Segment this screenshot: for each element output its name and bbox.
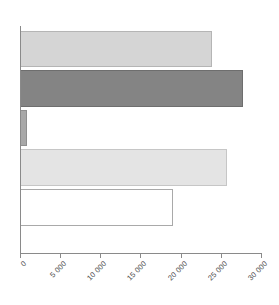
axis-tick-label-4-text: 20 000	[166, 259, 189, 282]
axis-tick-label-6: 30 000	[246, 259, 269, 282]
axis-tick-label-2-text: 10 000	[85, 259, 108, 282]
axis-tick-4	[181, 253, 182, 258]
bar-chart: 0 5 000 10 000 15 000 20 000 25 000 30 0…	[0, 0, 279, 305]
bar-series-2	[20, 70, 243, 107]
bar-series-1	[20, 31, 212, 67]
axis-tick-2	[100, 253, 101, 258]
axis-tick-label-0: 0	[19, 259, 28, 268]
category-axis-line	[20, 253, 262, 254]
bar-series-5	[20, 189, 173, 226]
axis-tick-label-2: 10 000	[85, 259, 108, 282]
bar-series-4	[20, 149, 227, 186]
axis-tick-label-0-text: 0	[19, 259, 28, 268]
plot-area	[20, 26, 262, 253]
axis-tick-label-1: 5 000	[48, 259, 68, 279]
axis-tick-label-3-text: 15 000	[125, 259, 148, 282]
axis-tick-label-3: 15 000	[125, 259, 148, 282]
bar-series-3	[20, 110, 27, 146]
axis-tick-0	[20, 253, 21, 258]
axis-tick-label-6-text: 30 000	[246, 259, 269, 282]
value-axis-line	[20, 26, 21, 254]
axis-tick-3	[140, 253, 141, 258]
axis-tick-label-5-text: 25 000	[206, 259, 229, 282]
axis-tick-label-4: 20 000	[166, 259, 189, 282]
axis-tick-6	[261, 253, 262, 258]
axis-tick-5	[221, 253, 222, 258]
axis-tick-label-5: 25 000	[206, 259, 229, 282]
axis-tick-1	[60, 253, 61, 258]
axis-tick-label-1-text: 5 000	[48, 259, 68, 279]
